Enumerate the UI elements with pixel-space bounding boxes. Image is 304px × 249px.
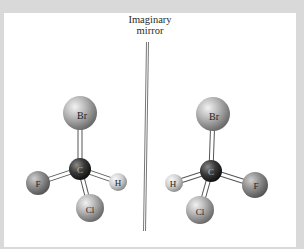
atom-label-c: C <box>208 167 214 177</box>
atom-h: H <box>109 173 127 191</box>
atom-c: C <box>200 160 222 182</box>
atom-f: F <box>242 172 268 198</box>
atom-br: Br <box>196 97 230 131</box>
enantiomer-diagram: Br F H C Cl <box>0 0 304 249</box>
atom-f: F <box>26 171 50 195</box>
atom-label-f: F <box>35 179 40 189</box>
atom-label-h: H <box>170 179 177 189</box>
atom-br: Br <box>63 96 97 130</box>
atom-label-br: Br <box>209 111 220 122</box>
atom-label-cl: Cl <box>86 205 95 215</box>
atom-c: C <box>69 158 91 180</box>
atom-label-c: C <box>77 165 83 175</box>
atom-h: H <box>165 174 183 192</box>
atom-cl: Cl <box>186 196 214 224</box>
atom-label-f: F <box>253 181 258 191</box>
atom-label-cl: Cl <box>196 207 205 217</box>
atom-cl: Cl <box>76 194 104 222</box>
right-molecule: Br H F C Cl <box>165 97 268 224</box>
mirror-plane <box>145 42 148 231</box>
left-molecule: Br F H C Cl <box>26 96 127 222</box>
atom-label-br: Br <box>77 110 88 121</box>
atom-label-h: H <box>115 178 122 188</box>
